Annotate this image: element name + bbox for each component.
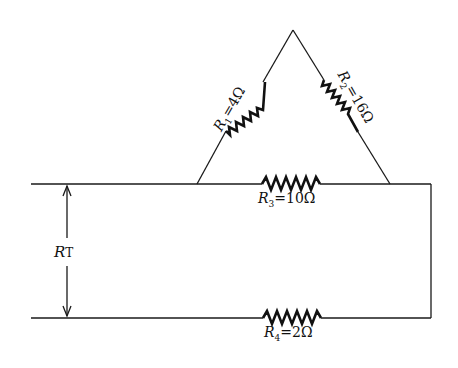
label-r4: R4=2Ω <box>264 324 313 343</box>
bottom-rail <box>31 311 431 324</box>
label-r3: R3=10Ω <box>258 190 315 209</box>
triangle-right <box>293 30 390 184</box>
triangle-left <box>197 30 293 184</box>
resistor-r3 <box>262 177 320 190</box>
r3-value: 10Ω <box>286 190 315 206</box>
r4-value: 2Ω <box>292 324 313 340</box>
r4-subscript: 4 <box>275 333 281 343</box>
circuit-diagram <box>0 0 458 368</box>
r3-symbol: R <box>258 190 269 206</box>
top-rail <box>31 177 431 190</box>
r4-symbol: R <box>264 324 275 340</box>
r3-subscript: 3 <box>269 199 275 209</box>
rt-subscript: T <box>65 246 73 260</box>
resistor-r4 <box>263 311 321 324</box>
label-rt: RT <box>54 243 73 261</box>
rt-symbol: R <box>54 243 65 261</box>
